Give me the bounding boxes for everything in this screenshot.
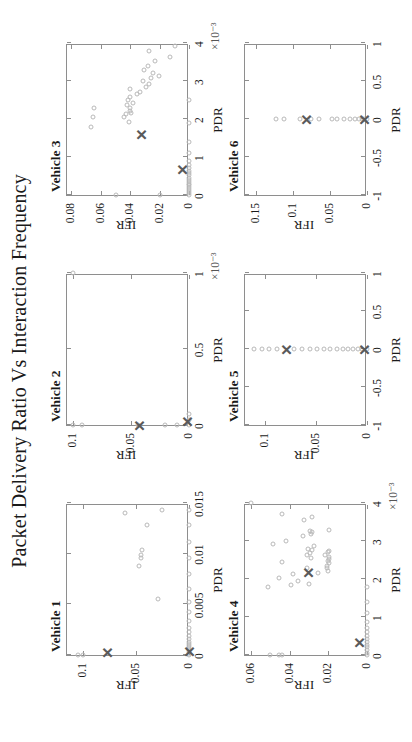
x-tick-label: 0	[193, 423, 205, 429]
y-axis-label: IFR	[289, 447, 319, 463]
data-point	[160, 508, 165, 513]
scatter-panel-vehicle-2: Vehicle 2✕✕00.5100.050.1PDRIFR×10⁻³	[44, 248, 222, 478]
x-axis-tick	[245, 80, 249, 81]
y-tick-label: 0.06	[94, 203, 106, 248]
x-axis-tick	[245, 578, 249, 579]
plot-area: ✕✕	[244, 504, 366, 656]
data-point	[309, 515, 314, 520]
y-tick-label: 0	[182, 203, 194, 248]
data-point	[187, 508, 192, 513]
panel-title: Vehicle 1	[48, 600, 64, 652]
x-tick-label: 1	[193, 271, 205, 277]
y-axis-tick	[265, 275, 266, 279]
y-axis-tick	[189, 275, 190, 279]
mean-marker: ✕	[100, 646, 115, 659]
x-axis-tick	[361, 310, 365, 311]
data-point	[315, 347, 320, 352]
x-axis-tick	[183, 42, 187, 43]
plot-area: ✕✕	[66, 504, 188, 656]
x-axis-tick	[361, 42, 365, 43]
y-axis-tick	[316, 421, 317, 425]
x-axis-label: PDR	[388, 337, 404, 362]
x-axis-tick	[361, 156, 365, 157]
y-axis-tick	[290, 505, 291, 509]
y-tick-label: 0.02	[153, 203, 165, 248]
data-point	[365, 599, 370, 604]
data-point	[144, 523, 149, 528]
data-point	[277, 575, 282, 580]
data-point	[283, 539, 288, 544]
x-tick-label: 4	[193, 41, 205, 47]
x-axis-tick	[67, 42, 71, 43]
data-point	[282, 117, 287, 122]
y-axis-label: IFR	[111, 217, 141, 233]
y-tick-label: 0.02	[321, 663, 333, 708]
scatter-panel-vehicle-6: Vehicle 6✕✕-1-0.500.5100.050.10.15PDRIFR	[222, 18, 400, 248]
plot-area: ✕✕	[66, 274, 188, 426]
y-tick-label: 0	[360, 433, 372, 478]
data-point	[365, 625, 370, 630]
y-axis-tick	[293, 191, 294, 195]
plot-area: ✕✕	[66, 44, 188, 196]
x-tick-label: 0.01	[193, 545, 205, 565]
x-axis-tick	[67, 502, 71, 503]
data-point	[147, 49, 152, 54]
panel-title: Vehicle 5	[226, 370, 242, 422]
y-axis-tick	[367, 505, 368, 509]
data-point	[365, 630, 370, 635]
y-axis-label: IFR	[111, 447, 141, 463]
figure-canvas: Packet Delivery Ratio Vs Interaction Fre…	[0, 0, 412, 742]
x-axis-tick	[361, 386, 365, 387]
panel-grid: Vehicle 1✕✕00.0050.010.01500.050.1PDRIFR…	[44, 18, 400, 708]
data-point	[345, 347, 350, 352]
data-point	[328, 347, 333, 352]
data-point	[137, 563, 142, 568]
mean-marker: ✕	[179, 415, 194, 428]
x-axis-tick	[361, 80, 365, 81]
y-axis-tick	[251, 505, 252, 509]
y-axis-tick	[330, 45, 331, 49]
data-point	[156, 597, 161, 602]
mean-marker: ✕	[278, 343, 293, 356]
x-axis-label: PDR	[388, 567, 404, 592]
data-point	[187, 139, 192, 144]
y-axis-label: IFR	[111, 677, 141, 693]
x-axis-tick	[245, 42, 249, 43]
data-point	[80, 653, 85, 658]
data-point	[131, 100, 136, 105]
x-tick-label: 1	[193, 155, 205, 161]
data-point	[88, 124, 93, 129]
x-tick-label: 3	[193, 79, 205, 85]
plot-area: ✕✕	[244, 44, 366, 196]
data-point	[279, 560, 284, 565]
y-axis-tick	[131, 275, 132, 279]
data-point	[316, 117, 321, 122]
data-point	[187, 120, 192, 125]
scatter-panel-vehicle-3: Vehicle 3✕✕0123400.020.040.060.08PDRIFR×…	[44, 18, 222, 248]
y-axis-label: IFR	[289, 217, 319, 233]
x-tick-label: -0.5	[371, 149, 383, 167]
x-axis-label: PDR	[388, 107, 404, 132]
mean-marker: ✕	[352, 636, 367, 649]
x-tick-label: 4	[371, 501, 383, 507]
x-axis-tick	[67, 553, 71, 554]
x-tick-label: 0	[193, 653, 205, 659]
y-tick-label: 0	[360, 203, 372, 248]
data-point	[311, 544, 316, 549]
data-point	[252, 347, 257, 352]
mean-marker: ✕	[133, 128, 148, 141]
y-tick-label: 0.1	[66, 433, 78, 478]
x-axis-tick	[183, 502, 187, 503]
data-point	[365, 611, 370, 616]
data-point	[157, 193, 162, 198]
x-axis-tick	[67, 118, 71, 119]
x-axis-tick	[245, 310, 249, 311]
x-tick-label: 0	[371, 347, 383, 353]
y-tick-label: 0	[182, 663, 194, 708]
data-point	[327, 554, 332, 559]
data-point	[365, 584, 370, 589]
data-point	[187, 625, 192, 630]
data-point	[156, 73, 161, 78]
data-point	[187, 610, 192, 615]
y-tick-label: 0.1	[258, 433, 270, 478]
